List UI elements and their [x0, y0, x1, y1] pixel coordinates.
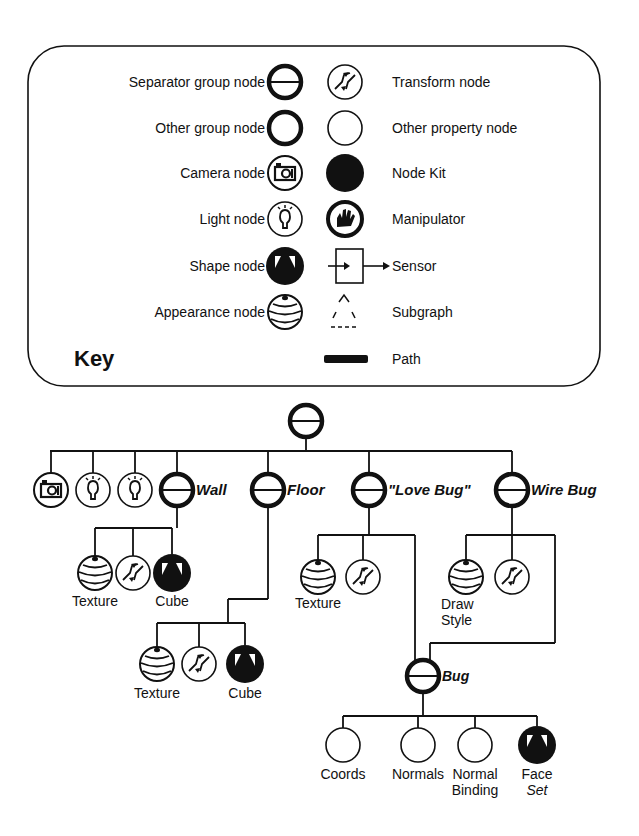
path-icon [324, 355, 368, 363]
floor-separator-node [252, 474, 284, 506]
legend-label-sensor: Sensor [392, 258, 436, 274]
floor-label: Floor [287, 482, 325, 498]
face-set-label-line1: Face [515, 767, 559, 782]
floor-transform-node [182, 647, 216, 681]
wall-cube-label: Cube [152, 594, 192, 609]
wall-separator-node [161, 474, 193, 506]
light-node [118, 473, 152, 507]
floor-texture-node [140, 647, 174, 681]
scene-graph-diagram [0, 0, 639, 836]
floor-cube-label: Cube [225, 686, 265, 701]
light-node [76, 473, 110, 507]
floor-cube-node [226, 645, 264, 683]
group-node-icon [269, 112, 301, 144]
coords-node [326, 728, 360, 762]
camera-node [34, 473, 68, 507]
legend-label-separator: Separator group node [129, 74, 265, 90]
wirebug-separator-node [496, 474, 528, 506]
wall-transform-node [116, 556, 150, 590]
bug-separator-node [407, 660, 439, 692]
lovebug-texture-label: Texture [288, 596, 348, 611]
wirebug-transform-node [495, 560, 529, 594]
drawstyle-label-line1: Draw [441, 597, 485, 612]
wall-texture-label: Texture [70, 594, 120, 609]
root-separator-node [290, 405, 322, 437]
wirebug-label: Wire Bug [531, 482, 597, 498]
shape-node-icon [266, 247, 304, 285]
key-title: Key [74, 346, 114, 372]
separator-group-node-icon [269, 66, 301, 98]
wall-texture-node [78, 556, 112, 590]
legend-label-camera: Camera node [180, 165, 265, 181]
lovebug-label: "Love Bug" [388, 482, 471, 498]
normal-binding-label-line2: Binding [443, 783, 507, 798]
bug-label: Bug [442, 668, 469, 684]
node-kit-icon [326, 154, 364, 192]
legend-label-manipulator: Manipulator [392, 211, 465, 227]
lovebug-transform-node [346, 560, 380, 594]
floor-texture-label: Texture [127, 686, 187, 701]
legend-label-property: Other property node [392, 120, 517, 136]
legend-label-group: Other group node [155, 120, 265, 136]
light-node-icon [268, 202, 302, 236]
wall-label: Wall [196, 482, 227, 498]
legend-label-appearance: Appearance node [154, 304, 265, 320]
normal-binding-label-line1: Normal [443, 767, 507, 782]
wirebug-drawstyle-node [449, 560, 483, 594]
face-set-node [518, 726, 556, 764]
face-set-label-line2: Set [515, 783, 559, 798]
normal-binding-node [458, 728, 492, 762]
normals-label: Normals [385, 767, 451, 782]
normals-node [401, 728, 435, 762]
appearance-node-icon [268, 295, 302, 329]
manipulator-icon [328, 202, 362, 236]
wall-cube-node [153, 554, 191, 592]
coords-label: Coords [313, 767, 373, 782]
transform-node-icon [328, 65, 362, 99]
drawstyle-label-line2: Style [441, 613, 485, 628]
legend-label-transform: Transform node [392, 74, 490, 90]
legend-label-shape: Shape node [189, 258, 265, 274]
camera-node-icon [268, 156, 302, 190]
key-box [28, 46, 600, 386]
legend-label-path: Path [392, 351, 421, 367]
legend-label-light: Light node [200, 211, 265, 227]
lovebug-separator-node [353, 474, 385, 506]
legend-label-subgraph: Subgraph [392, 304, 453, 320]
property-node-icon [328, 111, 362, 145]
legend-label-nodekit: Node Kit [392, 165, 446, 181]
lovebug-texture-node [301, 560, 335, 594]
